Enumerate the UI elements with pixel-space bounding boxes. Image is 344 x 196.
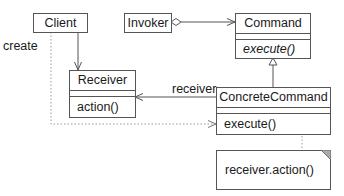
class-command[interactable]: Command execute()	[235, 13, 311, 59]
receiver-role-label: receiver	[172, 83, 216, 96]
class-name: Receiver	[70, 71, 135, 90]
note-receiver-action[interactable]: receiver.action()	[216, 150, 331, 190]
class-name: Invoker	[125, 14, 171, 32]
note-folded-corner-icon	[321, 150, 331, 160]
class-concrete-command[interactable]: ConcreteCommand execute()	[216, 87, 331, 135]
association-client-receiver	[75, 32, 82, 70]
operation-execute: execute()	[236, 39, 310, 58]
uml-diagram: Client Invoker Command execute() Receive…	[0, 0, 344, 196]
class-invoker[interactable]: Invoker	[124, 13, 172, 33]
operation-execute: execute()	[217, 113, 330, 134]
class-name: Client	[34, 14, 87, 32]
class-receiver[interactable]: Receiver action()	[69, 70, 136, 118]
operation-action: action()	[70, 96, 135, 117]
note-text: receiver.action()	[225, 163, 314, 177]
generalization-concrete-command	[269, 58, 277, 87]
class-name: Command	[236, 14, 310, 33]
aggregation-invoker-command	[171, 19, 235, 26]
class-name: ConcreteCommand	[217, 88, 330, 107]
create-label: create	[3, 40, 38, 53]
class-client[interactable]: Client	[33, 13, 88, 33]
